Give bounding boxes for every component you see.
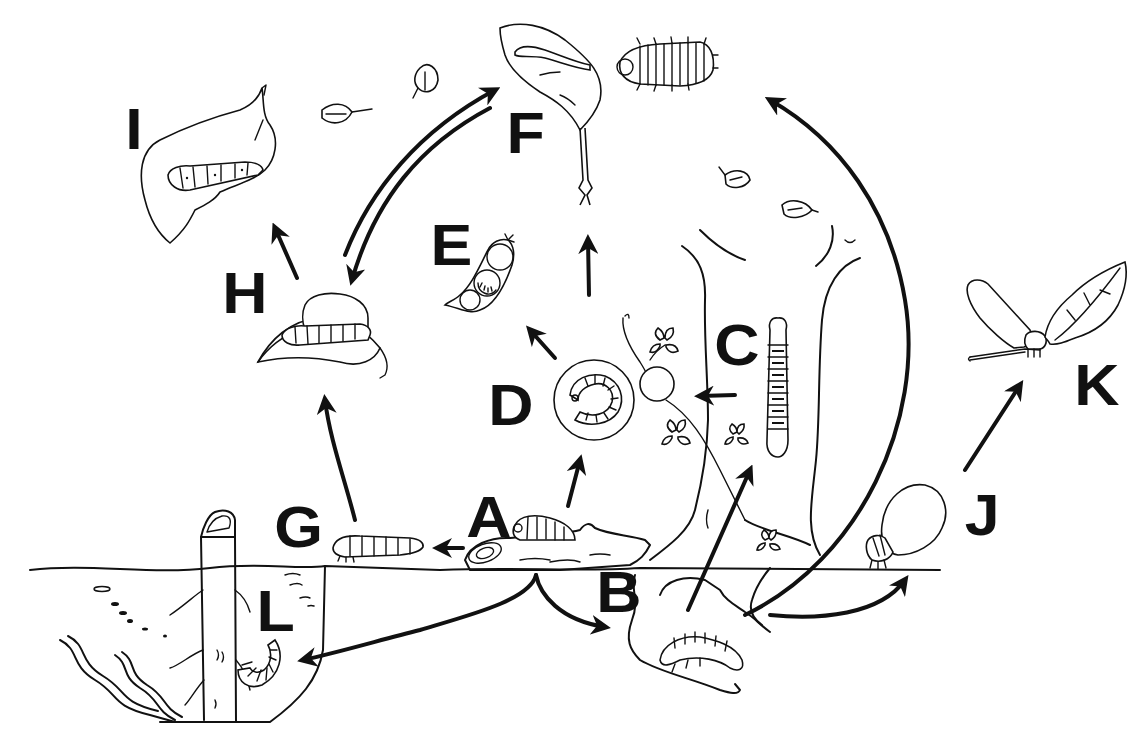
- arrow-d-to-e: [530, 330, 555, 358]
- label-f: F: [507, 104, 545, 162]
- label-k: K: [1074, 356, 1119, 414]
- arrow-c-to-d: [700, 395, 735, 396]
- arrow-a-to-d: [568, 460, 580, 506]
- tree-trunk: [650, 226, 860, 560]
- arrow-a-to-b: [536, 575, 605, 627]
- label-l: L: [257, 582, 295, 640]
- crawling-larva: [333, 536, 423, 562]
- diagram-artwork: [0, 0, 1139, 751]
- tree-larva: [767, 318, 788, 457]
- label-i: I: [125, 100, 142, 158]
- aquatic-larva: [238, 640, 280, 687]
- chewed-leaf: [141, 85, 275, 243]
- adult-on-twig: [967, 262, 1126, 361]
- arrow-h-to-i: [275, 228, 297, 278]
- life-cycle-diagram: A B C D E F G H I J K L: [0, 0, 1139, 751]
- arrow-h-to-f: [345, 90, 495, 255]
- flat-larva: [617, 37, 718, 91]
- label-g: G: [274, 498, 323, 556]
- label-e: E: [430, 216, 472, 274]
- arrow-d-to-f: [588, 240, 589, 295]
- frothy-larva-leaf: [258, 293, 387, 378]
- arrow-j-to-k: [965, 385, 1020, 470]
- label-h: H: [222, 264, 267, 322]
- label-a: A: [466, 488, 511, 546]
- label-j: J: [965, 486, 1000, 544]
- adult-on-ground: [866, 485, 945, 569]
- label-c: C: [714, 316, 759, 374]
- submerged-stem: [170, 510, 250, 722]
- gall-with-larva: [554, 360, 634, 440]
- larva-on-log: [513, 516, 575, 540]
- label-b: B: [596, 563, 641, 621]
- label-d: D: [488, 376, 533, 434]
- arrow-a-to-l: [303, 575, 536, 660]
- arrow-g-to-h: [325, 400, 355, 520]
